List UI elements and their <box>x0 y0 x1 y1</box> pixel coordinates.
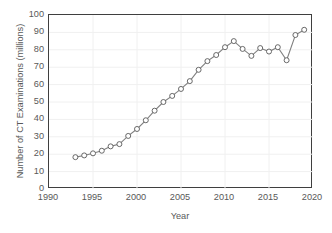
x-tick-label: 1990 <box>38 192 58 203</box>
data-point-marker <box>143 118 148 123</box>
x-tick-label: 2005 <box>170 192 190 203</box>
data-point-marker <box>82 153 87 158</box>
data-point-marker <box>249 53 254 58</box>
data-point-marker <box>240 46 245 51</box>
data-point-marker <box>170 93 175 98</box>
data-point-marker <box>284 58 289 63</box>
data-point-marker <box>275 45 280 50</box>
data-point-marker <box>267 49 272 54</box>
data-point-marker <box>196 67 201 72</box>
data-point-marker <box>214 53 219 58</box>
data-point-marker <box>152 108 157 113</box>
data-point-marker <box>223 45 228 50</box>
data-point-marker <box>73 155 78 160</box>
data-point-marker <box>258 46 263 51</box>
chart-figure: Number of CT Examinations (millions) 010… <box>0 0 332 233</box>
data-point-marker <box>126 133 131 138</box>
x-tick-label: 2020 <box>302 192 322 203</box>
gridlines <box>49 15 313 189</box>
data-point-marker <box>293 33 298 38</box>
data-point-marker <box>99 148 104 153</box>
data-series-ct-examinations <box>73 27 307 159</box>
data-point-marker <box>108 144 113 149</box>
data-point-marker <box>187 79 192 84</box>
data-point-marker <box>135 126 140 131</box>
data-point-marker <box>302 27 307 32</box>
data-point-marker <box>161 100 166 105</box>
x-tick-label: 1995 <box>82 192 102 203</box>
data-point-marker <box>179 86 184 91</box>
x-tick-label: 2015 <box>258 192 278 203</box>
x-axis-title: Year <box>48 211 312 221</box>
data-point-marker <box>231 39 236 44</box>
x-tick-label: 2010 <box>214 192 234 203</box>
data-point-marker <box>205 59 210 64</box>
x-tick-label: 2000 <box>126 192 146 203</box>
plot-area <box>48 14 312 188</box>
chart-canvas <box>49 15 313 189</box>
data-point-marker <box>117 142 122 147</box>
data-point-marker <box>91 151 96 156</box>
